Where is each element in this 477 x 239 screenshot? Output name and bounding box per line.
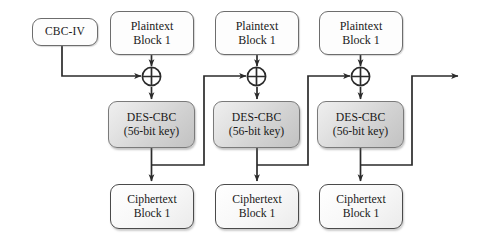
plaintext-block-2-line2: Block 1	[238, 33, 276, 47]
plaintext-block-1[interactable]: Plaintext Block 1	[110, 11, 194, 55]
plaintext-block-1-line1: Plaintext	[131, 19, 174, 33]
des-cbc-engine-1[interactable]: DES-CBC (56-bit key)	[108, 101, 195, 148]
ciphertext-block-2-line1: Ciphertext	[232, 193, 281, 207]
cbc-iv-box[interactable]: CBC-IV	[32, 18, 98, 46]
ciphertext-block-3[interactable]: Ciphertext Block 1	[319, 184, 403, 229]
des-cbc-engine-3-line1: DES-CBC	[336, 111, 385, 125]
ciphertext-block-1-line2: Block 1	[134, 207, 171, 221]
ciphertext-block-3-line1: Ciphertext	[336, 193, 385, 207]
plaintext-block-3[interactable]: Plaintext Block 1	[319, 11, 403, 55]
ciphertext-block-3-line2: Block 1	[343, 207, 380, 221]
xor-icon-3[interactable]	[350, 66, 371, 87]
des-cbc-engine-2[interactable]: DES-CBC (56-bit key)	[213, 101, 300, 148]
ciphertext-block-1[interactable]: Ciphertext Block 1	[110, 184, 194, 229]
plaintext-block-1-line2: Block 1	[133, 33, 171, 47]
des-cbc-engine-1-line2: (56-bit key)	[124, 125, 180, 139]
plaintext-block-2-line1: Plaintext	[236, 19, 279, 33]
ciphertext-block-2-line2: Block 1	[239, 207, 276, 221]
plaintext-block-3-line2: Block 1	[342, 33, 380, 47]
ciphertext-block-1-line1: Ciphertext	[127, 193, 176, 207]
des-cbc-engine-3-line2: (56-bit key)	[333, 125, 389, 139]
xor-icon-1[interactable]	[141, 66, 162, 87]
diagram-canvas: CBC-IV Plaintext Block 1 Plaintext Block…	[0, 0, 477, 239]
plaintext-block-3-line1: Plaintext	[340, 19, 383, 33]
ciphertext-block-2[interactable]: Ciphertext Block 1	[215, 184, 299, 229]
des-cbc-engine-2-line1: DES-CBC	[232, 111, 281, 125]
cbc-iv-label: CBC-IV	[45, 25, 85, 39]
des-cbc-engine-3[interactable]: DES-CBC (56-bit key)	[317, 101, 404, 148]
xor-icon-2[interactable]	[246, 66, 267, 87]
des-cbc-engine-1-line1: DES-CBC	[127, 111, 176, 125]
plaintext-block-2[interactable]: Plaintext Block 1	[215, 11, 299, 55]
des-cbc-engine-2-line2: (56-bit key)	[229, 125, 285, 139]
